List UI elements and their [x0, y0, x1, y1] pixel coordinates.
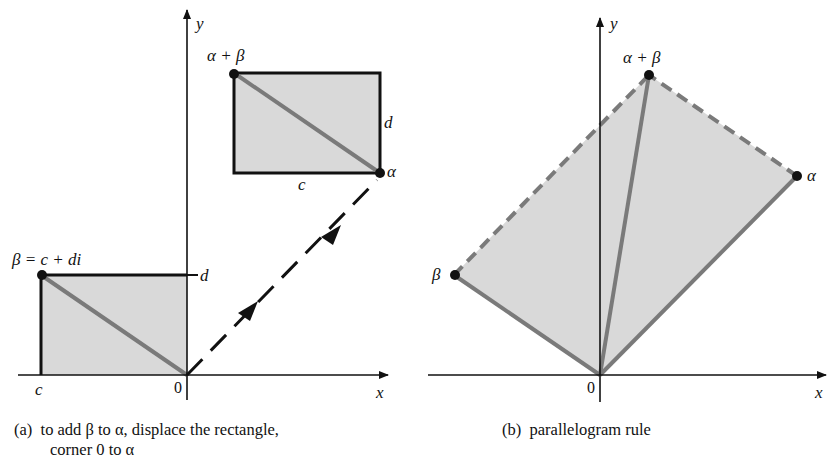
caption-b-text: parallelogram rule: [530, 420, 651, 439]
beta-label-b: β: [431, 265, 441, 284]
point-alpha-plus-beta-b: [644, 70, 654, 80]
point-alpha-plus-beta: [229, 69, 239, 79]
panel-b: y x 0 α + β α β: [428, 14, 826, 402]
caption-a-prefix: (a): [14, 420, 32, 439]
panel-a: y x 0 α + β α d c β = c + di d c: [11, 10, 397, 402]
caption-a: (a) to add β to α, displace the rectangl…: [14, 420, 279, 460]
y-axis-label-a: y: [194, 14, 204, 33]
rect-width-label: c: [298, 175, 306, 194]
caption-b-prefix: (b): [502, 420, 521, 439]
tick-c-label: c: [35, 380, 43, 399]
point-alpha: [375, 168, 385, 178]
caption-b: (b) parallelogram rule: [502, 420, 651, 440]
point-beta: [37, 270, 47, 280]
caption-a-line1: to add β to α, displace the rectangle,: [41, 420, 279, 439]
displacement-vector: [187, 180, 377, 375]
sum-label-a: α + β: [207, 46, 245, 65]
tick-d-label: d: [200, 266, 209, 285]
x-axis-label-b: x: [814, 383, 823, 402]
figure-canvas: y x 0 α + β α d c β = c + di d c y x 0 α…: [0, 0, 837, 474]
sum-label-b: α + β: [623, 48, 661, 67]
caption-a-line2: corner 0 to α: [14, 440, 134, 459]
origin-label-a: 0: [174, 379, 182, 396]
point-alpha-b: [792, 171, 802, 181]
beta-label-a: β = c + di: [11, 250, 81, 269]
origin-label-b: 0: [587, 379, 595, 396]
y-axis-label-b: y: [608, 14, 618, 33]
x-axis-label-a: x: [375, 383, 384, 402]
alpha-label-a: α: [387, 162, 397, 181]
alpha-label-b: α: [807, 166, 817, 185]
rect-height-label: d: [384, 113, 393, 132]
point-beta-b: [450, 270, 460, 280]
